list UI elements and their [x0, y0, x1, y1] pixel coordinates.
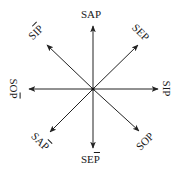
center-point — [91, 87, 94, 90]
arrow-sw-sapbar — [50, 89, 93, 132]
label-sop-bar-overlined: P — [8, 92, 20, 98]
label-sop-bar-prefix: SO — [8, 78, 20, 92]
label-sop-bar: SOP — [8, 78, 19, 98]
label-sep-bar: SEP — [81, 154, 100, 165]
label-sip: SIP — [161, 81, 172, 97]
label-sep-bar-overlined: P — [94, 153, 100, 165]
label-sap: SAP — [81, 9, 101, 20]
arrows-svg — [0, 0, 184, 178]
arrow-nw-sipbar — [47, 45, 93, 89]
label-sep-bar-prefix: SE — [81, 153, 94, 165]
arrow-se-sop — [93, 89, 139, 131]
arrow-ne-sep — [93, 45, 138, 89]
octant-arrow-diagram: SAP SEP SIP SOP SEP SAP SOP SIP — [0, 0, 184, 178]
